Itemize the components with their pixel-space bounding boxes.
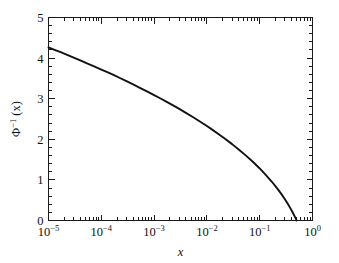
x-tick-label: 10−1 (249, 223, 271, 239)
x-tick-label: 10−4 (91, 223, 113, 239)
y-tick-label: 3 (37, 92, 43, 106)
x-tick-label: 100 (304, 223, 321, 239)
x-axis-tick-labels: 10−510−410−310−210−1100 (38, 223, 321, 239)
x-tick-label: 10−3 (143, 223, 165, 239)
plot-frame (49, 18, 313, 221)
y-axis-title: Φ−1 (x) (8, 101, 23, 137)
y-tick-label: 0 (37, 214, 43, 228)
figure-container: 10−510−410−310−210−1100 012345 x Φ−1 (x) (0, 0, 339, 263)
y-axis-major-ticks (49, 18, 313, 221)
x-tick-label: 10−2 (196, 223, 218, 239)
y-axis-tick-labels: 012345 (37, 11, 44, 228)
x-axis-major-ticks (49, 18, 313, 221)
y-tick-label: 5 (37, 11, 43, 25)
x-axis-minor-ticks (64, 18, 310, 221)
y-tick-label: 2 (37, 133, 43, 147)
y-tick-label: 4 (37, 52, 44, 66)
x-axis-title: x (177, 245, 184, 259)
chart-plot: 10−510−410−310−210−1100 012345 x Φ−1 (x) (0, 0, 339, 263)
data-series-line (49, 47, 297, 220)
svg-text:Φ−1 (x): Φ−1 (x) (8, 101, 23, 137)
y-tick-label: 1 (37, 173, 43, 187)
